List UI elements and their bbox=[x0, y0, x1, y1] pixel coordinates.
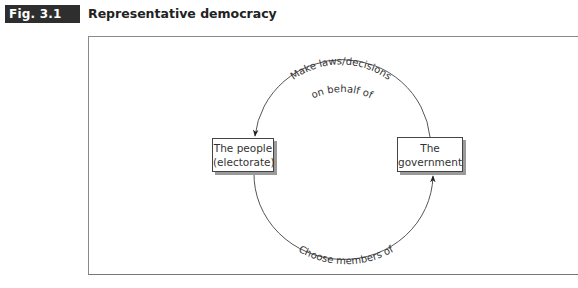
edge-govern-label-line1: Make laws/decisions bbox=[288, 55, 393, 81]
edge-choose-label: Choose members of bbox=[297, 243, 395, 266]
edge-choose-arrow bbox=[254, 172, 433, 259]
node-government-line1: The bbox=[398, 141, 462, 155]
node-people-line2: (electorate) bbox=[213, 155, 273, 169]
edge-govern-label-line2: on behalf of bbox=[309, 83, 375, 101]
node-the-people: The people (electorate) bbox=[212, 138, 274, 172]
node-the-government: The government bbox=[397, 137, 463, 172]
node-government-line2: government bbox=[398, 155, 462, 169]
node-people-line1: The people bbox=[213, 141, 273, 155]
edge-govern-arrow bbox=[255, 60, 430, 137]
